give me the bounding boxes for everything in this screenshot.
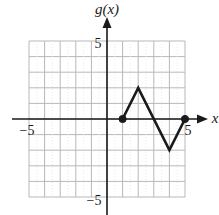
x-axis-arrow-icon: [197, 115, 208, 124]
x-tick-label-min: −5: [20, 123, 35, 138]
y-tick-label-max: 5: [95, 36, 102, 51]
axes: [12, 17, 208, 215]
x-axis-label: x: [211, 110, 219, 126]
y-tick-label-min: −5: [87, 193, 102, 208]
y-axis-arrow-icon: [103, 17, 112, 28]
endpoint-dot-icon: [119, 115, 126, 122]
x-tick-label-max: 5: [185, 123, 192, 138]
y-axis-label: g(x): [95, 1, 119, 18]
endpoint-dot-icon: [181, 115, 188, 122]
function-graph: g(x) x −5 5 5 −5: [0, 0, 219, 215]
